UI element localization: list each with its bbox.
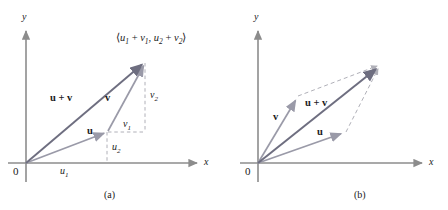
vector-u-plus-v-label: u + v	[50, 93, 72, 104]
vector-u-label: u	[317, 127, 323, 138]
component-v1-sub: 1	[127, 124, 131, 132]
dashed-translated-u	[298, 66, 377, 96]
vector-u-arrow	[26, 133, 104, 163]
component-v2-label: v2	[150, 90, 158, 103]
origin-label: 0	[245, 166, 251, 177]
vector-u-label: u	[87, 126, 93, 137]
component-u2-label: u2	[112, 142, 121, 155]
y-axis-label: y	[254, 12, 258, 22]
origin-label: 0	[13, 166, 19, 177]
panel-b-graphics	[224, 0, 448, 210]
component-u1-sub: 1	[65, 171, 69, 179]
component-v2-sub: 2	[154, 95, 158, 103]
vector-u-plus-v-label: u + v	[305, 98, 327, 109]
y-axis-label: y	[22, 12, 26, 22]
x-axis-label: x	[429, 157, 433, 167]
coord-close-bracket: ⟩	[182, 32, 186, 43]
vector-u-plus-v-arrow	[26, 65, 142, 164]
component-u1-label: u1	[60, 166, 69, 179]
panel-a-caption: (a)	[104, 190, 115, 200]
component-v1-label: v1	[123, 119, 131, 132]
coord-plus-1: +	[129, 32, 140, 43]
vector-v-arrow	[258, 101, 296, 164]
sum-point-coordinates: ⟨u1 + v1, u2 + v2⟩	[116, 33, 186, 46]
panel-a: x y 0 ⟨u1 + v1, u2 + v2⟩ u + v v u u1 u2…	[0, 0, 224, 210]
component-u2-sub: 2	[117, 147, 121, 155]
vector-v-label: v	[273, 112, 278, 123]
vector-v-label: v	[105, 93, 110, 104]
panel-b-caption: (b)	[354, 190, 366, 200]
dashed-translated-v	[346, 69, 378, 132]
panel-b: x y 0 u + v v u (b)	[224, 0, 448, 210]
coord-plus-2: +	[163, 32, 174, 43]
x-axis-label: x	[204, 157, 208, 167]
vector-addition-figure: x y 0 ⟨u1 + v1, u2 + v2⟩ u + v v u u1 u2…	[0, 0, 448, 210]
panel-a-graphics	[0, 0, 224, 210]
vector-u-arrow	[258, 134, 341, 163]
